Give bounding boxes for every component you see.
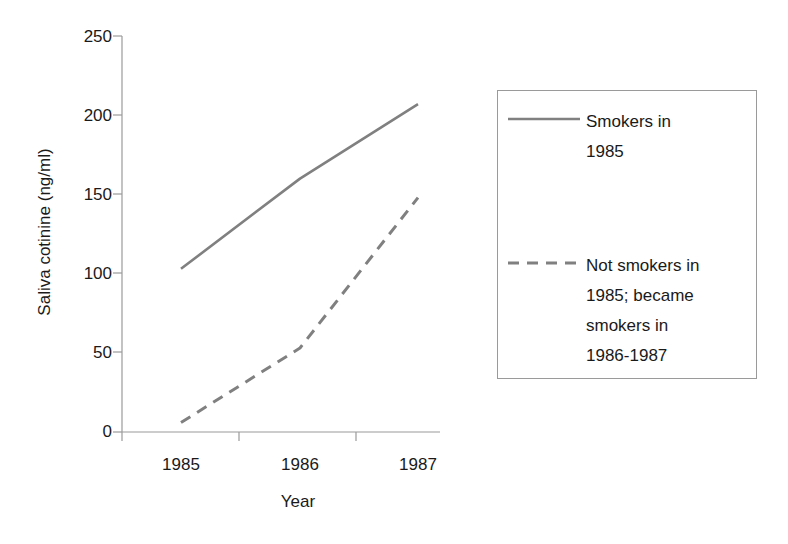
legend-label-not-smokers-line-4: 1986-1987	[586, 341, 758, 371]
legend-label-not-smokers: Not smokers in 1985; became smokers in 1…	[584, 251, 758, 371]
series-line-not-smokers-1985	[181, 198, 418, 423]
chart-legend: Smokers in 1985 Not smokers in 1985; bec…	[497, 90, 757, 379]
legend-label-not-smokers-line-1: Not smokers in	[586, 251, 758, 281]
legend-swatch-dashed-line	[506, 253, 584, 273]
legend-label-not-smokers-line-3: smokers in	[586, 311, 758, 341]
legend-label-smokers-line-2: 1985	[586, 137, 758, 167]
legend-label-not-smokers-line-2: 1985; became	[586, 281, 758, 311]
legend-label-smokers: Smokers in 1985	[584, 107, 758, 167]
legend-entry-not-smokers: Not smokers in 1985; became smokers in 1…	[498, 251, 758, 371]
x-tick-marks	[122, 432, 356, 441]
y-tick-marks	[113, 36, 122, 432]
legend-entry-smokers: Smokers in 1985	[498, 107, 758, 167]
legend-label-smokers-line-1: Smokers in	[586, 107, 758, 137]
line-chart: Saliva cotinine (ng/ml) 250 200 150 100 …	[0, 0, 788, 544]
legend-swatch-solid-line	[506, 109, 584, 129]
